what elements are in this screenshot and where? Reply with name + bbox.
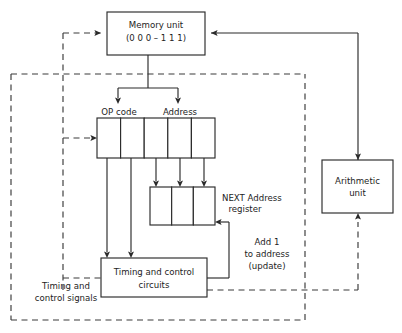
timing-signals-label-line2: control signals <box>35 293 98 303</box>
next-address-register-label-line2: register <box>228 204 262 214</box>
arrowhead-timing-in-2 <box>128 251 134 258</box>
instruction-register-cell[interactable] <box>191 118 215 158</box>
arrowhead-nar-in-3 <box>201 180 207 187</box>
timing-control-circuits-box[interactable] <box>101 258 207 297</box>
instruction-register-cell[interactable] <box>97 118 121 158</box>
arithmetic-unit-label-line2: unit <box>349 188 366 198</box>
arrowhead-ir-dashed <box>90 135 97 141</box>
timing-control-circuits-label-line2: circuits <box>139 280 170 290</box>
next-address-register-cell[interactable] <box>193 187 215 225</box>
timing-control-circuits-label-line1: Timing and control <box>113 267 194 277</box>
arrowhead-nar-in-2 <box>177 180 183 187</box>
memory-unit-label-line2: (0 0 0 – 1 1 1) <box>126 33 186 43</box>
instruction-register-cell[interactable] <box>121 118 145 158</box>
add-one-label-line2: to address <box>244 249 290 259</box>
arrowhead-timing-in-1 <box>104 251 110 258</box>
diagram-canvas: Memory unit (0 0 0 – 1 1 1) Arithmetic u… <box>0 0 402 333</box>
address-label: Address <box>163 107 198 117</box>
arrowhead-opcode <box>115 97 121 104</box>
op-code-label: OP code <box>101 107 136 117</box>
instruction-register-cell[interactable] <box>168 118 192 158</box>
timing-signals-label-line1: Timing and <box>41 281 90 291</box>
next-address-register-cell[interactable] <box>172 187 194 225</box>
arithmetic-unit-label-line1: Arithmetic <box>335 176 380 186</box>
add-one-label-line1: Add 1 <box>255 237 280 247</box>
block-diagram-svg: Memory unit (0 0 0 – 1 1 1) Arithmetic u… <box>0 0 402 333</box>
arrowhead-arith-bottom-dashed <box>355 213 361 220</box>
memory-unit-label-line1: Memory unit <box>129 20 184 30</box>
arrowhead-address <box>175 97 181 104</box>
instruction-register-cell[interactable] <box>144 118 168 158</box>
add-one-label-line3: (update) <box>249 261 286 271</box>
next-address-register-cells[interactable] <box>150 187 215 225</box>
next-address-register-cell[interactable] <box>150 187 172 225</box>
arithmetic-unit-box[interactable] <box>322 160 393 213</box>
next-address-register-label-line1: NEXT Address <box>222 193 282 203</box>
instruction-register-cells[interactable] <box>97 118 215 158</box>
arrowhead-nar-in-1 <box>153 180 159 187</box>
